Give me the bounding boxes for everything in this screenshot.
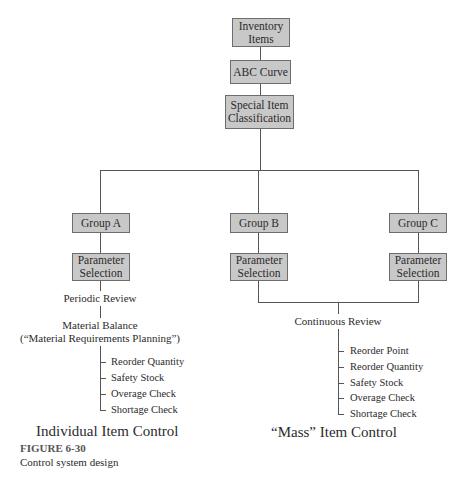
param-selection-a-box: Parameter Selection [72,253,130,281]
param-selection-a-label: Parameter Selection [73,254,129,280]
mass-item: Safety Stock [350,377,403,389]
connector [418,233,419,253]
individual-item: Reorder Quantity [111,356,184,368]
param-selection-b-label: Parameter Selection [231,254,287,280]
periodic-review-label: Periodic Review [63,292,136,305]
figure-label: FIGURE 6-30 [20,442,86,454]
connector [260,47,261,60]
abc-curve-label: ABC Curve [233,66,288,79]
mass-item: Reorder Quantity [350,361,423,373]
tick [100,378,106,379]
group-b-box: Group B [230,213,288,233]
special-item-classification-box: Special Item Classification [225,95,294,129]
group-c-label: Group C [398,217,438,230]
special-item-classification-label: Special Item Classification [226,99,293,125]
tick [100,410,106,411]
individual-item: Safety Stock [111,372,164,384]
mass-item: Shortage Check [350,408,417,420]
branch-line [100,170,419,171]
tick [338,351,344,352]
connector [418,170,419,213]
param-selection-b-box: Parameter Selection [230,253,288,281]
mass-item: Overage Check [350,392,415,404]
connector [258,281,259,302]
connector [100,306,101,318]
material-balance-label: Material Balance [62,319,137,332]
individual-item: Shortage Check [111,404,178,416]
inventory-items-box: Inventory Items [232,18,290,47]
connector [260,129,261,170]
connector [258,170,259,213]
param-selection-c-label: Parameter Selection [390,254,446,280]
tick [338,383,344,384]
individual-item: Overage Check [111,388,176,400]
tick [100,394,106,395]
individual-item-control-title: Individual Item Control [36,423,178,440]
abc-curve-box: ABC Curve [230,60,291,84]
continuous-review-label: Continuous Review [294,315,381,328]
tick [338,414,344,415]
mrp-label: (“Material Requirements Planning”) [20,332,180,345]
figure-caption: Control system design [20,456,118,468]
tick [100,362,106,363]
tick [338,367,344,368]
mass-item-control-title: “Mass” Item Control [271,424,397,441]
tick [338,398,344,399]
group-a-label: Group A [81,217,121,230]
group-c-box: Group C [389,213,447,233]
group-a-box: Group A [72,213,130,233]
mass-item: Reorder Point [350,345,409,357]
connector [338,302,339,314]
connector [100,281,101,291]
inventory-items-label: Inventory Items [233,20,289,46]
connector [260,84,261,95]
connector [258,233,259,253]
param-selection-c-box: Parameter Selection [389,253,447,281]
connector [418,281,419,302]
connector [100,170,101,213]
connector [338,329,339,415]
group-b-label: Group B [239,217,279,230]
connector [100,233,101,253]
